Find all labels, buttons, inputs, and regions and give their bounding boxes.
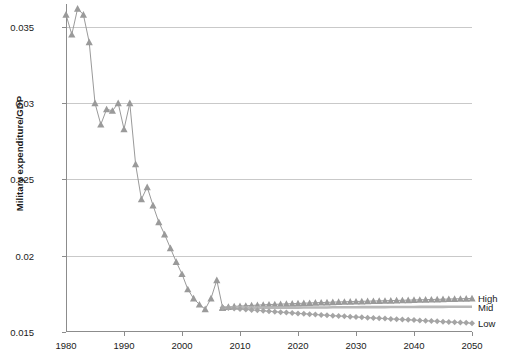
y-tick-mark [62,103,66,104]
y-tick-label: 0.035 [10,21,34,32]
data-point-marker [132,161,139,168]
data-point-marker [370,315,376,321]
series-line [223,308,472,324]
data-point-marker [272,309,278,315]
data-point-marker [463,320,469,326]
data-point-marker [376,315,382,321]
data-point-marker [330,313,336,319]
data-point-marker [469,320,475,326]
data-point-marker [301,311,307,317]
data-point-marker [138,196,145,203]
data-point-marker [149,202,156,209]
data-point-marker [173,258,180,265]
series-line [66,9,223,310]
data-point-marker [167,244,174,251]
x-tick-label: 2040 [403,340,424,351]
legend-label-mid: Mid [478,301,493,312]
series-historical [62,5,226,312]
y-tick-label: 0.015 [10,327,34,338]
data-point-marker [388,316,394,322]
x-tick-mark [414,332,415,336]
data-point-marker [207,295,214,302]
data-point-marker [120,125,127,132]
data-point-marker [440,319,446,325]
data-point-marker [213,277,220,284]
data-point-marker [91,100,98,107]
data-point-marker [452,319,458,325]
x-tick-mark [124,332,125,336]
data-point-marker [74,5,81,12]
data-point-marker [68,31,75,38]
data-point-marker [266,308,272,314]
data-point-marker [324,312,330,318]
data-point-marker [394,316,400,322]
data-point-marker [161,231,168,238]
x-tick-label: 2010 [229,340,250,351]
data-point-marker [184,286,191,293]
data-point-marker [155,219,162,226]
y-tick-mark [62,27,66,28]
y-tick-mark [62,256,66,257]
data-point-marker [359,314,365,320]
y-tick-mark [62,332,66,333]
data-point-marker [399,316,405,322]
data-point-marker [103,106,110,113]
y-tick-label: 0.02 [16,250,35,261]
data-point-marker [365,315,371,321]
series-line [223,307,472,308]
data-point-marker [115,100,122,107]
x-tick-label: 1980 [55,340,76,351]
x-tick-label: 2000 [171,340,192,351]
data-point-marker [382,316,388,322]
data-point-marker [434,318,440,324]
y-tick-label: 0.025 [10,174,34,185]
x-tick-label: 1990 [113,340,134,351]
y-tick-mark [62,179,66,180]
series-mid [223,307,472,308]
y-tick-label: 0.03 [16,98,35,109]
data-point-marker [225,305,231,311]
data-point-marker [126,100,133,107]
data-point-marker [278,309,284,315]
data-point-marker [411,317,417,323]
data-point-marker [289,310,295,316]
data-point-marker [423,318,429,324]
data-point-marker [341,313,347,319]
x-tick-mark [240,332,241,336]
data-point-marker [417,317,423,323]
x-tick-label: 2030 [345,340,366,351]
x-tick-mark [472,332,473,336]
data-point-marker [178,270,185,277]
data-point-marker [283,309,289,315]
data-point-marker [446,319,452,325]
x-tick-label: 2050 [461,340,482,351]
data-point-marker [62,11,69,18]
x-tick-mark [182,332,183,336]
data-point-marker [307,311,313,317]
series-layer [66,4,472,332]
plot-area [66,4,472,332]
data-point-marker [295,310,301,316]
data-point-marker [190,295,197,302]
data-point-marker [86,39,93,46]
data-point-marker [405,317,411,323]
chart-container: Military expenditure/GDP 0.0150.020.0250… [0,0,508,364]
data-point-marker [347,314,353,320]
x-tick-label: 2020 [287,340,308,351]
x-tick-mark [298,332,299,336]
legend-label-low: Low [478,318,495,329]
data-point-marker [353,314,359,320]
x-tick-mark [356,332,357,336]
y-axis-title: Military expenditure/GDP [14,49,25,259]
data-point-marker [312,311,318,317]
data-point-marker [457,320,463,326]
data-point-marker [336,313,342,319]
data-point-marker [428,318,434,324]
data-point-marker [318,312,324,318]
data-point-marker [144,183,151,190]
data-point-marker [97,121,104,128]
